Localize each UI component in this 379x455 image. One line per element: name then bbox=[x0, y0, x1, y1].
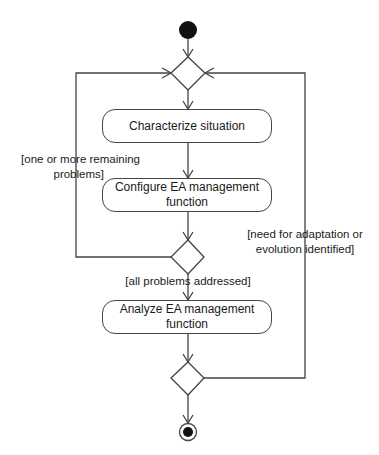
action-label: Characterize situation bbox=[129, 119, 245, 134]
guard-need-for-adaptation: [need for adaptation or evolution identi… bbox=[240, 227, 370, 257]
initial-node bbox=[179, 21, 197, 39]
decision-node-adaptation bbox=[171, 362, 204, 395]
action-characterize-situation: Characterize situation bbox=[102, 109, 272, 143]
action-label-line1: Analyze EA management bbox=[120, 302, 255, 317]
decision-node-problems bbox=[171, 240, 204, 274]
action-label-line1: Configure EA management bbox=[115, 180, 259, 195]
merge-node bbox=[171, 57, 205, 90]
final-node bbox=[183, 427, 193, 437]
guard-all-problems-addressed: [all problems addressed] bbox=[118, 274, 258, 289]
action-label-line2: function bbox=[166, 195, 208, 210]
guard-text: [all problems addressed] bbox=[125, 275, 250, 287]
action-analyze-ea-management-function: Analyze EA management function bbox=[102, 300, 272, 334]
guard-remaining-problems: [one or more remaining problems] bbox=[16, 152, 140, 182]
guard-line1: [one or more remaining bbox=[16, 152, 140, 167]
guard-line2: problems] bbox=[16, 167, 140, 182]
guard-line2: evolution identified] bbox=[240, 242, 370, 257]
guard-line1: [need for adaptation or bbox=[240, 227, 370, 242]
action-configure-ea-management-function: Configure EA management function bbox=[102, 178, 272, 212]
action-label-line2: function bbox=[166, 317, 208, 332]
